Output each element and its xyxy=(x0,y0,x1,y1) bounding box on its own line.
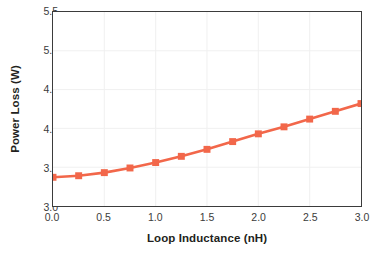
data-point-marker xyxy=(204,146,211,153)
data-point-marker xyxy=(332,108,339,115)
data-point-marker xyxy=(281,123,288,130)
data-point-marker xyxy=(101,169,108,176)
data-point-marker xyxy=(53,174,56,181)
x-axis-title: Loop Inductance (nH) xyxy=(52,232,362,244)
chart-figure: Power Loss (W) 3.03.54.04.55.05.5 0.00.5… xyxy=(0,0,377,261)
x-axis-tick-label: 0.5 xyxy=(84,212,124,223)
data-point-marker xyxy=(75,172,82,179)
x-axis-tick-label: 3.0 xyxy=(342,212,377,223)
chart-canvas xyxy=(53,12,361,206)
data-point-marker xyxy=(358,100,361,107)
data-point-marker xyxy=(229,138,236,145)
data-point-marker xyxy=(255,130,262,137)
x-axis-tick-label: 1.5 xyxy=(187,212,227,223)
x-axis-tick-label: 1.0 xyxy=(135,212,175,223)
x-axis-tick-label: 2.5 xyxy=(290,212,330,223)
x-axis-tick-label: 2.0 xyxy=(239,212,279,223)
data-point-marker xyxy=(178,153,185,160)
data-point-marker xyxy=(152,159,159,166)
data-point-marker xyxy=(127,165,134,172)
data-point-marker xyxy=(306,116,313,123)
x-axis-tick-label: 0.0 xyxy=(32,212,72,223)
y-axis-title: Power Loss (W) xyxy=(4,11,26,207)
plot-area xyxy=(52,11,362,207)
gridlines xyxy=(53,12,361,206)
